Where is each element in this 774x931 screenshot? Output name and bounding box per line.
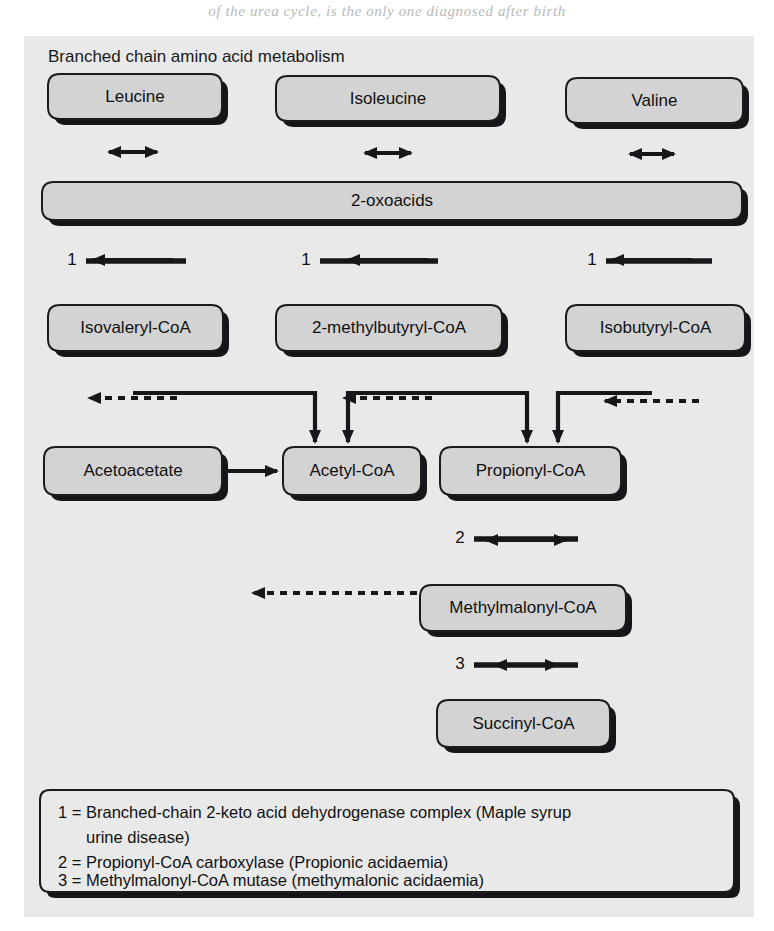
node-label: Isovaleryl-CoA	[80, 318, 191, 337]
enzyme-number: 3	[455, 654, 464, 673]
node-label: 2-oxoacids	[351, 191, 433, 210]
edge-methylbutyryl-propionyl	[348, 393, 527, 442]
node-label: Methylmalonyl-CoA	[449, 598, 597, 617]
node-methylbutyryl-coa[interactable]: 2-methylbutyryl-CoA	[276, 305, 508, 357]
node-valine[interactable]: Valine	[566, 78, 749, 129]
node-propionyl-coa[interactable]: Propionyl-CoA	[440, 447, 627, 501]
node-isobutyryl-coa[interactable]: Isobutyryl-CoA	[566, 305, 751, 357]
node-oxoacids[interactable]: 2-oxoacids	[42, 182, 748, 226]
legend: 1 = Branched-chain 2-keto acid dehydroge…	[40, 790, 740, 898]
node-isovaleryl-coa[interactable]: Isovaleryl-CoA	[48, 305, 229, 357]
enzyme-marker-enz-3: 3	[455, 654, 578, 673]
enzyme-number: 1	[587, 250, 596, 269]
enzyme-marker-enz-1-valine: 1	[587, 250, 712, 269]
node-isoleucine[interactable]: Isoleucine	[276, 76, 506, 127]
node-label: Isoleucine	[350, 89, 427, 108]
enzyme-marker-enz-2: 2	[455, 528, 578, 547]
enzyme-marker-enz-1-isoleucine: 1	[301, 250, 438, 269]
node-label: Valine	[632, 91, 678, 110]
node-acetoacetate[interactable]: Acetoacetate	[44, 447, 228, 501]
figure-title: Branched chain amino acid metabolism	[48, 47, 345, 66]
legend-line-3: 3 = Methylmalonyl-CoA mutase (methymalon…	[58, 871, 484, 889]
node-label: Isobutyryl-CoA	[600, 318, 712, 337]
node-layer: LeucineIsoleucineValine2-oxoacidsIsovale…	[42, 74, 751, 753]
node-label: Leucine	[105, 87, 165, 106]
node-methylmalonyl-coa[interactable]: Methylmalonyl-CoA	[420, 585, 632, 637]
node-leucine[interactable]: Leucine	[48, 74, 228, 125]
node-label: 2-methylbutyryl-CoA	[312, 318, 467, 337]
node-acetyl-coa[interactable]: Acetyl-CoA	[283, 447, 427, 501]
node-label: Acetyl-CoA	[309, 461, 395, 480]
enzyme-marker-enz-1-leucine: 1	[67, 250, 186, 269]
legend-line-2: 2 = Propionyl-CoA carboxylase (Propionic…	[58, 853, 448, 871]
legend-line-1: 1 = Branched-chain 2-keto acid dehydroge…	[58, 803, 571, 821]
enzyme-number: 1	[301, 250, 310, 269]
legend-line-1-cont: urine disease)	[86, 828, 190, 846]
node-label: Succinyl-CoA	[472, 714, 575, 733]
node-label: Acetoacetate	[83, 461, 182, 480]
node-succinyl-coa[interactable]: Succinyl-CoA	[437, 700, 616, 753]
node-label: Propionyl-CoA	[476, 461, 586, 480]
figure-root: of the urea cycle, is the only one diagn…	[0, 0, 774, 931]
enzyme-number: 1	[67, 250, 76, 269]
edge-isovaleryl-acetylcoa	[133, 393, 315, 442]
enzyme-number: 2	[455, 528, 464, 547]
pathway-diagram: Branched chain amino acid metabolism	[0, 0, 774, 931]
